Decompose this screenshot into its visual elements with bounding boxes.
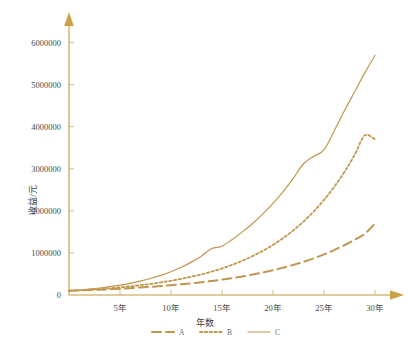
legend-label-a: A — [179, 328, 185, 337]
revenue-growth-line-chart: 0100000020000003000000400000050000006000… — [0, 0, 408, 344]
x-tick-label: 10年 — [162, 303, 180, 313]
y-tick-label: 4000000 — [31, 122, 61, 132]
y-tick-label: 5000000 — [31, 80, 61, 90]
chart-root: 0100000020000003000000400000050000006000… — [0, 0, 408, 344]
y-tick-label: 1000000 — [31, 248, 61, 258]
legend-label-b: B — [227, 328, 232, 337]
x-tick-label: 15年 — [213, 303, 231, 313]
x-tick-label: 30年 — [366, 303, 384, 313]
y-axis-title: 收益/元 — [27, 185, 38, 215]
y-tick-label: 3000000 — [31, 164, 61, 174]
chart-background — [0, 0, 408, 344]
y-tick-label: 0 — [57, 290, 61, 300]
y-tick-label: 6000000 — [31, 38, 61, 48]
legend-label-c: C — [275, 328, 280, 337]
x-tick-label: 5年 — [113, 303, 126, 313]
x-axis-title: 年数 — [196, 317, 214, 328]
x-tick-label: 25年 — [315, 303, 333, 313]
x-tick-label: 20年 — [264, 303, 282, 313]
